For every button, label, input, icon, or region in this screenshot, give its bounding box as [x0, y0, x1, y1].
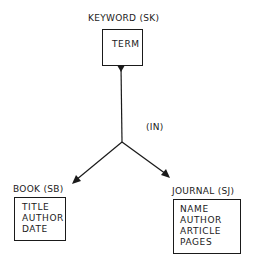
relationship-label: (IN)	[146, 122, 164, 132]
keyword-anchor-icon	[117, 65, 125, 72]
book-entity-title: BOOK (SB)	[13, 184, 64, 194]
journal-entity-title: JOURNAL (SJ)	[172, 186, 234, 196]
journal-field-name: NAME	[180, 204, 240, 215]
book-field-date: DATE	[22, 224, 65, 235]
keyword-field-term: TERM	[112, 39, 142, 50]
book-entity-box: TITLE AUTHOR DATE	[14, 197, 66, 241]
keyword-entity-title: KEYWORD (SK)	[88, 13, 159, 23]
journal-entity-box: NAME AUTHOR ARTICLE PAGES	[173, 199, 241, 254]
arrow-to-journal-icon	[161, 169, 170, 178]
journal-field-article: ARTICLE	[180, 226, 240, 237]
journal-field-author: AUTHOR	[180, 215, 240, 226]
journal-field-pages: PAGES	[180, 237, 240, 248]
book-field-author: AUTHOR	[22, 213, 65, 224]
book-field-title: TITLE	[22, 202, 65, 213]
keyword-entity-box: TERM	[102, 29, 143, 66]
